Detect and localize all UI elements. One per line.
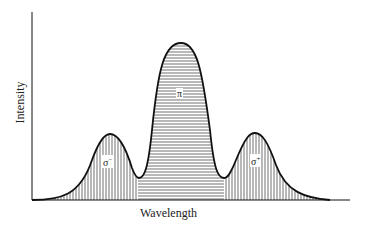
spectrum-plot	[0, 0, 366, 229]
x-axis-label: Wavelength	[140, 206, 197, 221]
hatched-areas	[32, 0, 334, 200]
sigma-minus-label: σ−	[102, 155, 113, 168]
y-axis-label: Intensity	[13, 75, 28, 131]
sigma-plus-label: σ+	[250, 154, 261, 167]
zeeman-spectrum-diagram: Wavelength Intensity σ− π σ+	[0, 0, 366, 229]
pi-label: π	[176, 88, 183, 99]
